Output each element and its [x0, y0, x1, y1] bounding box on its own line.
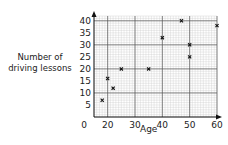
y-tick-label: 20 — [80, 64, 92, 74]
y-tick-label: 5 — [85, 100, 91, 110]
y-tick-label: 25 — [80, 52, 91, 62]
y-tick-label: 10 — [80, 88, 92, 98]
y-axis-arrow-icon — [92, 11, 97, 17]
y-tick-label: 40 — [80, 16, 92, 26]
y-axis-label-line-2: driving lessons — [4, 63, 76, 74]
x-tick-label: 0 — [81, 120, 87, 130]
y-axis-label-line-1: Number of — [4, 52, 76, 63]
x-tick-label: 20 — [102, 120, 114, 130]
x-axis-arrow-icon — [216, 115, 222, 120]
x-tick-label: 60 — [211, 120, 223, 130]
x-tick-label: 40 — [157, 120, 169, 130]
y-tick-label: 30 — [80, 40, 92, 50]
y-tick-label: 35 — [80, 28, 91, 38]
y-axis-label: Number of driving lessons — [4, 52, 76, 74]
x-tick-label: 50 — [184, 120, 196, 130]
x-axis-label: Age — [140, 124, 157, 134]
y-tick-label: 15 — [80, 76, 91, 86]
